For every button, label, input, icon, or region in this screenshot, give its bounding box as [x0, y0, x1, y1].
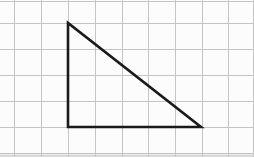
- graph-paper-figure: [0, 0, 254, 157]
- bottom-edge-shadow: [0, 155, 254, 158]
- triangle-on-grid-svg: [0, 0, 254, 157]
